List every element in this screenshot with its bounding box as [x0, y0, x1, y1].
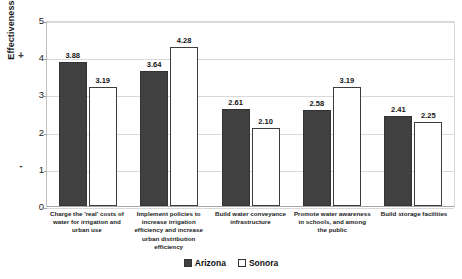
legend-item-arizona[interactable]: Arizona [184, 258, 226, 268]
y-tick-label-4: 4 [14, 53, 44, 63]
bar-group: 2.412.25 [373, 22, 454, 206]
bar-group: 2.612.10 [210, 22, 291, 206]
bar-value-label: 3.19 [340, 76, 355, 85]
legend-swatch-icon [238, 259, 246, 267]
category-label: Charge the 'real' costs of water for irr… [46, 210, 128, 256]
bar-arizona[interactable]: 2.58 [303, 110, 331, 206]
bar-value-label: 3.19 [95, 76, 110, 85]
bar-value-label: 2.25 [421, 111, 436, 120]
bar-arizona[interactable]: 2.41 [384, 116, 412, 206]
bar-value-label: 2.58 [310, 99, 325, 108]
bar-value-label: 3.88 [65, 51, 80, 60]
y-axis-tick-labels: 012345 [8, 0, 44, 279]
y-tick-label-1: 1 [14, 165, 44, 175]
bar-sonora[interactable]: 3.19 [333, 87, 361, 206]
bar-sonora[interactable]: 3.19 [89, 87, 117, 206]
bar-group: 2.583.19 [291, 22, 372, 206]
bar-value-label: 2.41 [391, 105, 406, 114]
chart-legend: ArizonaSonora [0, 258, 462, 268]
legend-item-sonora[interactable]: Sonora [238, 258, 278, 268]
category-label: Implement policies to increase irrigatio… [128, 210, 210, 256]
x-axis-category-labels: Charge the 'real' costs of water for irr… [46, 210, 455, 256]
bar-arizona[interactable]: 3.88 [59, 62, 87, 206]
bar-group: 3.644.28 [128, 22, 209, 206]
bar-value-label: 4.28 [177, 36, 192, 45]
bar-sonora[interactable]: 4.28 [170, 47, 198, 206]
bar-groups: 3.883.193.644.282.612.102.583.192.412.25 [47, 22, 454, 206]
gridline-0 [47, 208, 454, 209]
bar-value-label: 2.61 [228, 98, 243, 107]
effectiveness-bar-chart: Effectiveness + - 012345 3.883.193.644.2… [0, 0, 462, 279]
bar-value-label: 2.10 [258, 117, 273, 126]
bar-value-label: 3.64 [147, 60, 162, 69]
category-label: Build water conveyance infrastructure [210, 210, 292, 256]
legend-label: Arizona [195, 258, 226, 268]
bar-sonora[interactable]: 2.25 [414, 122, 442, 206]
category-label: Build storage facilities [373, 210, 455, 256]
tick-mark-0 [44, 208, 47, 209]
y-tick-label-2: 2 [14, 128, 44, 138]
plot-area: 3.883.193.644.282.612.102.583.192.412.25 [46, 21, 455, 207]
y-tick-label-5: 5 [14, 16, 44, 26]
y-tick-label-3: 3 [14, 90, 44, 100]
legend-swatch-icon [184, 259, 192, 267]
bar-arizona[interactable]: 3.64 [140, 71, 168, 206]
bar-sonora[interactable]: 2.10 [252, 128, 280, 206]
category-label: Promote water awareness in schools, and … [291, 210, 373, 256]
bar-arizona[interactable]: 2.61 [222, 109, 250, 206]
bar-group: 3.883.19 [47, 22, 128, 206]
legend-label: Sonora [249, 258, 278, 268]
y-tick-label-0: 0 [14, 202, 44, 212]
